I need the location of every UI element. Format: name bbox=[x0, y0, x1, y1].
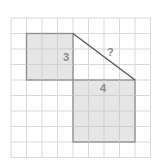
pythagorean-grid-diagram: 3 4 ? bbox=[0, 0, 157, 165]
label-hypotenuse-unknown: ? bbox=[107, 46, 114, 58]
label-side-4: 4 bbox=[100, 82, 107, 94]
label-side-3: 3 bbox=[63, 51, 69, 63]
